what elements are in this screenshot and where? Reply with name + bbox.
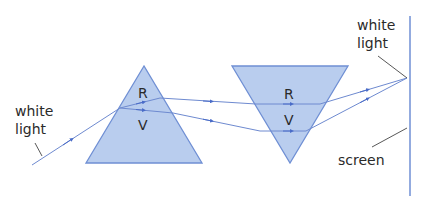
white-light-in-leader [35, 143, 42, 156]
dispersion-recombination-diagram: white light R V R V white light screen [0, 0, 424, 203]
prism1-red-label: R [138, 85, 148, 101]
white-light-out-label-line1: white [357, 17, 395, 33]
screen-leader [372, 128, 407, 147]
prism-1-upright [86, 66, 202, 163]
incident-arrow-icon [63, 139, 72, 145]
violet-ray-gap [173, 113, 260, 131]
prism2-red-label: R [284, 86, 294, 102]
screen-label: screen [338, 152, 385, 168]
white-light-out-leader [378, 56, 407, 78]
white-light-out-label-line2: light [357, 35, 389, 51]
violet-arrow-exit-icon [360, 99, 368, 103]
prism2-violet-label: V [284, 112, 294, 128]
red-arrow-gap-icon [203, 101, 212, 102]
prism1-violet-label: V [138, 117, 148, 133]
violet-arrow-gap-icon [203, 119, 212, 121]
white-light-in-label-line2: light [15, 121, 47, 137]
red-arrow-exit-icon [360, 90, 368, 92]
white-light-in-label-line1: white [15, 103, 53, 119]
